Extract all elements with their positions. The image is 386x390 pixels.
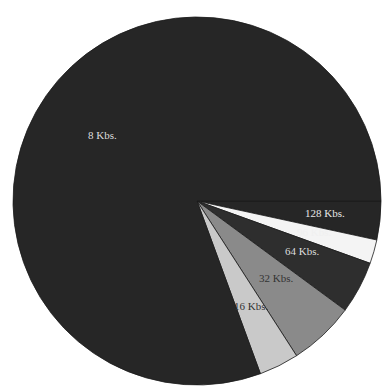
pie-slices — [13, 17, 381, 385]
slice-label-96: 96 Kbs. — [297, 226, 331, 238]
slice-label-64: 64 Kbs. — [285, 245, 319, 257]
slice-label-128: 128 Kbs. — [305, 207, 345, 219]
slice-label-16: 16 Kbs. — [234, 300, 268, 312]
slice-label-32: 32 Kbs. — [259, 272, 293, 284]
pie-chart: 128 Kbs. 96 Kbs. 64 Kbs. 32 Kbs. 16 Kbs.… — [0, 0, 386, 390]
slice-label-8: 8 Kbs. — [88, 129, 117, 141]
